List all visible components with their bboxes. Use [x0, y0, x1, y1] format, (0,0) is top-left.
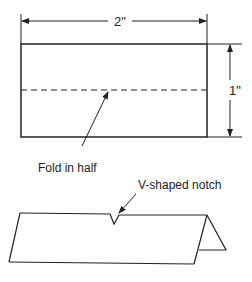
width-dimension: 2"	[21, 14, 207, 44]
folded-top-edge-with-notch	[20, 213, 207, 224]
height-label: 1"	[229, 83, 241, 98]
folded-bottom-edge	[9, 262, 194, 264]
folded-paper	[9, 213, 226, 264]
fold-label: Fold in half	[38, 161, 97, 175]
fold-pointer-arrow	[82, 92, 108, 146]
notch-pointer-arrow	[119, 194, 136, 213]
width-label: 2"	[114, 14, 126, 29]
folded-side-triangle	[199, 215, 226, 250]
folded-left-edge	[9, 213, 20, 262]
folded-right-edge	[194, 215, 207, 264]
notch-label: V-shaped notch	[138, 178, 221, 192]
fold-diagram: 2" 1" Fold in half V-shaped notch	[0, 0, 252, 282]
height-dimension: 1"	[207, 44, 242, 137]
